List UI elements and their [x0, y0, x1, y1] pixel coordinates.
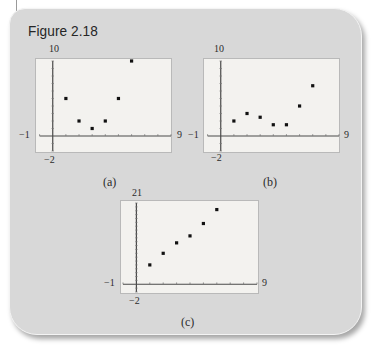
figure-title: Figure 2.18 [28, 22, 98, 40]
plot-c-ymax-label: 21 [132, 188, 142, 198]
plot-a-caption: (a) [103, 176, 116, 188]
data-point [259, 116, 262, 119]
plot-c-canvas [121, 201, 260, 295]
data-point [77, 119, 80, 122]
data-point [272, 123, 275, 126]
plot-b-canvas [204, 59, 341, 154]
data-point [215, 208, 218, 211]
plot-b-xmin-label: −1 [188, 130, 199, 140]
plot-c-xmax-label: 9 [262, 278, 267, 288]
plot-a-canvas [36, 59, 173, 154]
plot-b-caption: (b) [263, 176, 277, 188]
plot-c [120, 200, 259, 294]
plot-c-ymin-label: −2 [129, 296, 140, 306]
plot-c-xmin-label: −1 [104, 278, 115, 288]
data-point [104, 119, 107, 122]
data-point [91, 127, 94, 130]
plot-a [35, 58, 172, 153]
data-point [298, 104, 301, 107]
data-point [232, 119, 235, 122]
data-point [285, 123, 288, 126]
data-point [64, 97, 67, 100]
data-point [130, 59, 133, 62]
plot-a-xmin-label: −1 [19, 130, 30, 140]
plot-a-ymin-label: −2 [44, 155, 55, 165]
plot-b-ymin-label: −2 [211, 153, 222, 163]
data-point [117, 97, 120, 100]
data-point [245, 112, 248, 115]
data-point [188, 234, 191, 237]
data-point [311, 84, 314, 87]
plot-a-xmax-label: 9 [177, 130, 182, 140]
plot-c-caption: (c) [181, 316, 194, 328]
data-point [202, 222, 205, 225]
plot-b [203, 58, 340, 153]
data-point [148, 263, 151, 266]
plot-b-ymax-label: 10 [214, 44, 224, 54]
data-point [175, 241, 178, 244]
plot-a-ymax-label: 10 [49, 44, 59, 54]
data-point [162, 252, 165, 255]
plot-b-xmax-label: 9 [344, 130, 349, 140]
